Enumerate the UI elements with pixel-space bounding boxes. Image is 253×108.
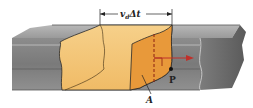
length-label: vdΔt <box>120 9 141 20</box>
dimension-arrow-right <box>167 12 172 16</box>
dimension-arrow-left <box>100 12 105 16</box>
area-label: A <box>145 95 153 105</box>
point-p-label: P <box>169 75 176 85</box>
length-label-dt: Δt <box>128 9 141 19</box>
point-p-dot <box>169 67 173 71</box>
drift-velocity-diagram: P A vdΔt <box>0 0 253 108</box>
